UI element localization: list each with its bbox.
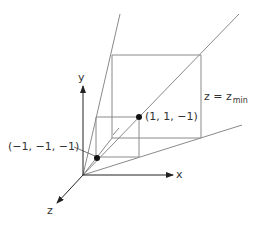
point-min-label: (−1, −1, −1)	[8, 141, 79, 152]
canonical-cube	[96, 117, 139, 157]
far-plane-label-main: z = z	[204, 90, 232, 103]
point-min-corner	[94, 155, 100, 161]
y-axis-label: y	[78, 72, 85, 83]
point-max-label: (1, 1, −1)	[145, 111, 198, 122]
z-axis	[57, 175, 83, 203]
x-axis-label: x	[176, 169, 183, 180]
diagram-canvas: y x z (−1, −1, −1) (1, 1, −1) z = zmin	[0, 0, 257, 225]
far-plane-label: z = zmin	[204, 91, 248, 105]
frustum-diagram	[0, 0, 257, 225]
point-max-corner	[136, 114, 142, 120]
far-plane-label-subscript: min	[233, 96, 248, 105]
z-axis-label: z	[47, 205, 53, 216]
